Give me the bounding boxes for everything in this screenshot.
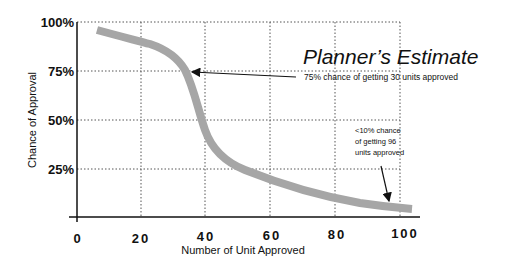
annotation-arrow-96: [381, 166, 389, 201]
y-tick-50: 50%: [48, 113, 74, 128]
y-tick-25: 25%: [48, 162, 74, 177]
y-axis-label: Chance of Approval: [26, 72, 38, 168]
annotation-10-line2: of getting 96: [355, 137, 396, 146]
x-tick-60: 60: [263, 228, 281, 243]
annotation-10-line1: <10% chance: [355, 126, 401, 135]
y-tick-75: 75%: [48, 64, 74, 79]
x-tick-100: 100: [391, 226, 419, 241]
chart-title: Planner’s Estimate: [303, 45, 478, 68]
annotation-10-line3: units approved: [355, 148, 404, 157]
x-tick-20: 20: [132, 231, 150, 246]
chart: 100% 75% 50% 25% 0 20 40 60 80 100 Numbe…: [0, 0, 506, 270]
y-tick-100: 100%: [41, 15, 75, 30]
x-tick-80: 80: [328, 227, 346, 242]
annotation-75-text: 75% chance of getting 30 units approved: [304, 72, 458, 82]
x-tick-0: 0: [73, 231, 80, 246]
annotation-arrow-75: [192, 72, 296, 77]
x-tick-40: 40: [197, 229, 215, 244]
x-axis-label: Number of Unit Approved: [181, 244, 305, 256]
